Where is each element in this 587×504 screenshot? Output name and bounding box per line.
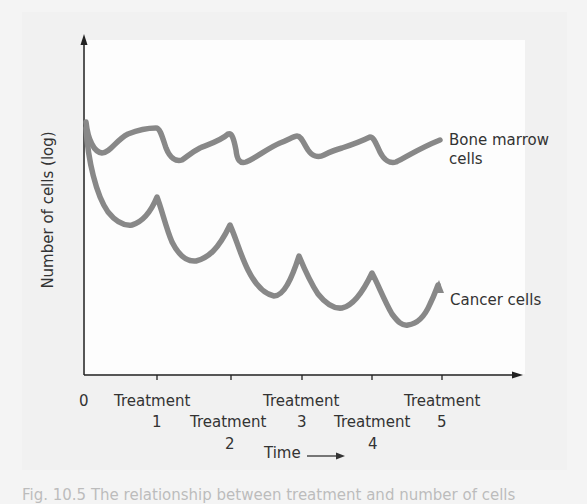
- x-axis-label: Time: [264, 444, 301, 462]
- x-tick-treatment-5: Treatment: [404, 392, 480, 410]
- bone-marrow-label-line1: Bone marrow: [449, 131, 549, 149]
- y-axis-arrow-icon: [81, 34, 88, 45]
- x-tick-treatment-3: Treatment: [263, 392, 339, 410]
- x-tick-treatment-5-number: 5: [437, 413, 447, 431]
- x-tick-0: 0: [79, 392, 89, 410]
- x-tick-treatment-4-number: 4: [368, 435, 378, 453]
- x-axis-arrow-icon: [512, 372, 523, 379]
- y-axis-label: Number of cells (log): [39, 131, 57, 288]
- x-tick-treatment-2-number: 2: [225, 435, 235, 453]
- time-arrow-icon: [306, 451, 346, 461]
- x-tick-treatment-1-number: 1: [152, 413, 162, 431]
- x-tick-treatment-4: Treatment: [334, 413, 410, 431]
- x-tick-treatment-2: Treatment: [190, 413, 266, 431]
- x-tick-treatment-3-number: 3: [297, 413, 307, 431]
- cancer-cells-label: Cancer cells: [450, 291, 541, 309]
- x-tick-treatment-1: Treatment: [114, 392, 190, 410]
- series-bone-marrow-cells: [86, 122, 440, 163]
- figure-caption-partial: Fig. 10.5 The relationship between treat…: [22, 486, 515, 504]
- bone-marrow-label-line2: cells: [449, 150, 483, 168]
